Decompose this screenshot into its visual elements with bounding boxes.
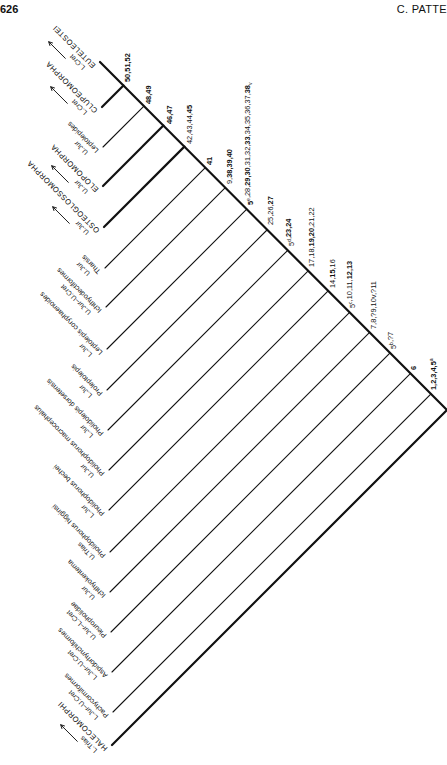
taxon-label-osteoglossomorpha: OSTEOGLOSSOMORPHAU.Jur xyxy=(16,158,101,243)
branch-ichthyokentema xyxy=(110,332,370,592)
node-label-2: 46,47 xyxy=(165,106,174,125)
branch-pholidophorus-higginsi xyxy=(110,312,350,552)
branch-clupeomorpha xyxy=(102,86,123,107)
taxon-name: OSTEOGLOSSOMORPHA xyxy=(25,158,102,235)
branch-aspidorhynchiformes xyxy=(112,373,411,672)
taxon-labels: EUTELEOSTEIL.CretCLUPEOMORPHAL.CretLepto… xyxy=(16,23,110,761)
branch-pachycormiformes xyxy=(113,394,431,712)
branch-leptolepides xyxy=(103,106,144,147)
node-label-4: 41 xyxy=(205,157,214,165)
taxon-name: Pholidophorus macrocephalus xyxy=(31,403,106,478)
node-label-3: 42,43,44,45 xyxy=(185,105,194,144)
node-label-14: 6 xyxy=(409,366,418,370)
cladogram-stem xyxy=(100,62,447,410)
node-label-6: 5e,28,29,30,31,32,33,34,35,36,37,38v xyxy=(243,82,255,205)
cladogram: EUTELEOSTEIL.CretCLUPEOMORPHAL.CretLepto… xyxy=(0,0,447,765)
node-label-8: 5d,23,24 xyxy=(284,218,296,246)
branch-leptolepis-coryphaenoides xyxy=(107,209,247,349)
node-label-0: 50,51,52 xyxy=(123,53,132,82)
branch-pholidolepis-dorsetensis xyxy=(108,250,288,430)
branch-tharsis xyxy=(105,168,205,268)
terminal-branches xyxy=(102,86,447,745)
node-label-12: 7,8,?9,10v,?11 xyxy=(369,281,378,329)
branch-pholidophorus-macrocephalus xyxy=(109,271,308,470)
branch-pleuropholidae xyxy=(111,353,390,632)
node-label-9: 17,18,19,20,21,22 xyxy=(307,207,316,267)
node-label-5: 9,38,39,40 xyxy=(225,149,234,184)
taxon-label-tharsis: TharsisU.Jur xyxy=(73,253,102,282)
branch-pholidophorus-bechei xyxy=(109,291,328,510)
node-label-15: 1,2,3,4,5a xyxy=(428,358,438,390)
node-label-10: 14,15,16 xyxy=(328,259,337,288)
node-label-13: 5b,?7 xyxy=(386,332,398,349)
taxon-label-ichthyokentema: IchthyokentemaU.Jur xyxy=(60,558,108,606)
branch-osteoglossomorpha xyxy=(104,147,184,227)
node-label-7: 25,26,27 xyxy=(266,196,275,225)
branch-proleptolepis xyxy=(107,230,267,390)
branch-halecomorphi xyxy=(112,410,447,745)
node-label-1: 48,49 xyxy=(144,86,153,105)
node-character-labels: 50,51,5248,4946,4742,43,44,45419,38,39,4… xyxy=(123,53,438,390)
node-label-11: 5c,10,11,12,13 xyxy=(345,261,357,308)
